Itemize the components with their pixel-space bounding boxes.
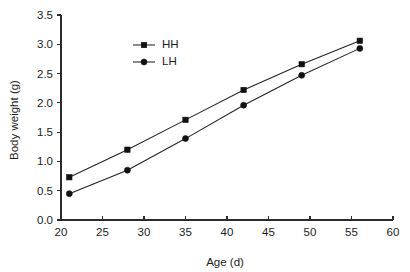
legend-label: HH [162, 38, 179, 50]
x-tick-label: 55 [345, 226, 358, 238]
legend-item-hh: HH [133, 38, 179, 50]
line-chart: 0.00.51.01.52.02.53.03.5 202530354045505… [0, 0, 410, 272]
x-tick-label: 45 [262, 226, 275, 238]
chart-legend: HHLH [133, 38, 179, 67]
y-axis-ticks [57, 15, 61, 220]
data-point-marker [299, 72, 305, 78]
legend-item-lh: LH [133, 55, 177, 67]
x-axis-title: Age (d) [206, 256, 244, 268]
data-point-marker [125, 147, 130, 152]
y-tick-label: 3.5 [37, 9, 53, 21]
series-line-hh [69, 41, 360, 177]
data-point-marker [357, 45, 363, 51]
x-axis-ticks [61, 216, 393, 220]
y-tick-label: 1.5 [37, 126, 53, 138]
data-point-marker [241, 102, 247, 108]
data-series-group [66, 38, 363, 197]
legend-label: LH [162, 55, 177, 67]
y-tick-label: 0.0 [37, 214, 53, 226]
series-line-lh [69, 48, 360, 193]
y-tick-label: 0.5 [37, 185, 53, 197]
x-tick-label: 60 [387, 226, 400, 238]
chart-canvas: 0.00.51.01.52.02.53.03.5 202530354045505… [0, 0, 410, 272]
data-point-marker [183, 136, 189, 142]
series-hh [67, 38, 363, 180]
y-axis-tick-labels: 0.00.51.01.52.02.53.03.5 [37, 9, 53, 226]
x-tick-label: 40 [221, 226, 234, 238]
y-tick-label: 2.0 [37, 97, 53, 109]
data-point-marker [241, 87, 246, 92]
data-point-marker [124, 167, 130, 173]
data-point-marker [299, 62, 304, 67]
y-axis-title: Body weight (g) [8, 80, 20, 160]
data-point-marker [67, 175, 72, 180]
y-tick-label: 1.0 [37, 155, 53, 167]
y-tick-label: 2.5 [37, 68, 53, 80]
legend-marker-circle [141, 59, 147, 65]
series-lh [66, 45, 363, 196]
x-tick-label: 25 [96, 226, 109, 238]
x-axis-tick-labels: 202530354045505560 [55, 226, 400, 238]
axis-lines [61, 15, 393, 220]
data-point-marker [66, 191, 72, 197]
x-tick-label: 50 [304, 226, 317, 238]
y-tick-label: 3.0 [37, 38, 53, 50]
legend-marker-square [141, 42, 146, 47]
data-point-marker [357, 38, 362, 43]
x-tick-label: 35 [179, 226, 192, 238]
x-tick-label: 20 [55, 226, 68, 238]
data-point-marker [183, 117, 188, 122]
x-tick-label: 30 [138, 226, 151, 238]
